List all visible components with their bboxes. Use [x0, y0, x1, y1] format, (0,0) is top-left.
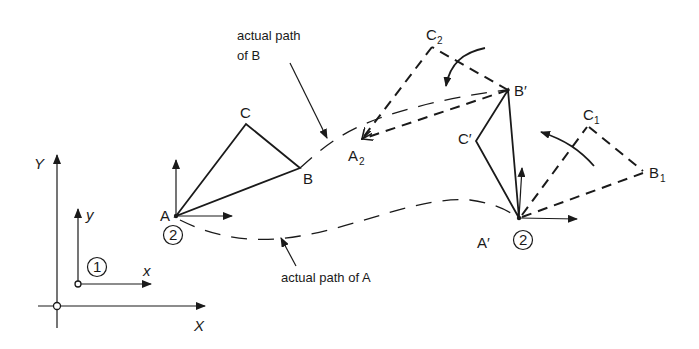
edge-b-a2 [362, 90, 508, 139]
rigid-body-motion-diagram: Y X y x 1 A C B 2 actual path of A actua… [0, 0, 699, 349]
path-b-label-line1: actual path [237, 28, 301, 43]
triangle-abc [176, 124, 300, 216]
edge-a-b1 [522, 173, 643, 217]
body-final: B′ C′ A′ 2 [458, 82, 577, 251]
leader-path-a [281, 238, 296, 266]
global-x-label: X [193, 317, 205, 334]
triangle-a-prime-b-prime-c-prime [476, 90, 519, 218]
label-c2: C [426, 26, 437, 43]
label-b1-sub: 1 [660, 173, 666, 184]
point-b-prime-dot [506, 88, 510, 92]
label-c-prime: C′ [458, 130, 472, 147]
label-b1: B [649, 164, 659, 181]
path-of-a [180, 200, 519, 240]
rotation-arrow-2 [446, 48, 485, 86]
path-b-label-line2: of B [237, 48, 260, 63]
edge-c1-b1 [589, 127, 643, 171]
body2-marker-label: 2 [169, 226, 177, 243]
label-a2: A [348, 147, 358, 164]
final-marker-label: 2 [519, 231, 527, 248]
label-a2-sub: 2 [359, 156, 365, 167]
path-a-label: actual path of A [281, 270, 371, 285]
label-c1: C [583, 106, 594, 123]
label-a: A [160, 207, 170, 224]
point-a-prime-dot [517, 216, 521, 220]
path-of-b [300, 90, 508, 168]
frame1-marker-label: 1 [93, 258, 101, 275]
label-a-prime: A′ [477, 234, 490, 251]
rotation-arrow-1 [541, 132, 594, 166]
label-c2-sub: 2 [437, 35, 443, 46]
final-frame-y-axis [519, 168, 522, 218]
global-origin [54, 303, 61, 310]
intermediate-position-2: C 2 A 2 [348, 26, 508, 167]
label-b: B [303, 170, 313, 187]
intermediate-position-1: C 1 B 1 [522, 106, 666, 217]
frame1-x-label: x [142, 262, 151, 279]
final-frame-x-axis [519, 218, 577, 219]
leader-path-b [290, 63, 327, 138]
body-initial: A C B 2 [160, 104, 313, 245]
label-c1-sub: 1 [594, 115, 600, 126]
label-c: C [240, 104, 251, 121]
frame1-y-label: y [85, 206, 95, 223]
edge-c2-a2 [362, 47, 432, 139]
local-frame-1: y x 1 [75, 206, 151, 287]
edge-a-c1 [522, 127, 587, 215]
label-b-prime: B′ [514, 82, 527, 99]
annotation-path-a: actual path of A [281, 238, 371, 285]
annotation-path-b: actual path of B [237, 28, 327, 138]
global-frame: Y X [34, 155, 205, 334]
frame1-origin [75, 281, 81, 287]
global-y-label: Y [34, 155, 45, 172]
point-a-dot [174, 214, 178, 218]
